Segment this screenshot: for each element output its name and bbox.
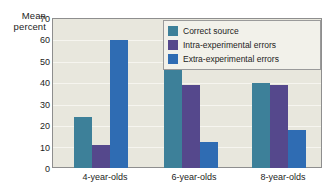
legend-item-label: Correct source — [183, 26, 239, 36]
y-tick-label: 20 — [28, 121, 50, 131]
bar — [74, 117, 92, 168]
legend-swatch-icon — [168, 40, 178, 50]
bar — [182, 85, 200, 168]
legend-item-label: Extra-experimental errors — [183, 54, 279, 64]
bar-group — [74, 18, 136, 168]
x-tick-label: 4-year-olds — [60, 172, 150, 182]
y-tick-label: 30 — [28, 100, 50, 110]
y-tick-label: 70 — [28, 14, 50, 24]
bar — [92, 145, 110, 168]
y-tick-label: 10 — [28, 143, 50, 153]
bar — [164, 68, 182, 168]
bar — [270, 85, 288, 168]
bar — [252, 83, 270, 168]
bar — [200, 142, 218, 168]
y-tick-label: 0 — [28, 164, 50, 174]
legend-item: Intra-experimental errors — [168, 38, 316, 52]
y-tick-label: 60 — [28, 35, 50, 45]
bar — [110, 40, 128, 168]
y-tick-label: 50 — [28, 57, 50, 67]
legend-item: Correct source — [168, 24, 316, 38]
x-tick-label: 6-year-olds — [149, 172, 239, 182]
legend: Correct source Intra-experimental errors… — [163, 20, 321, 70]
bar-chart: Mean percent 70 60 50 40 30 20 10 0 — [0, 0, 332, 192]
x-tick-label: 8-year-olds — [238, 172, 328, 182]
y-tick-label: 40 — [28, 78, 50, 88]
legend-swatch-icon — [168, 54, 178, 64]
y-axis-ticks: 70 60 50 40 30 20 10 0 — [26, 0, 50, 192]
legend-swatch-icon — [168, 26, 178, 36]
legend-item-label: Intra-experimental errors — [183, 40, 276, 50]
bar — [288, 130, 306, 168]
legend-item: Extra-experimental errors — [168, 52, 316, 66]
